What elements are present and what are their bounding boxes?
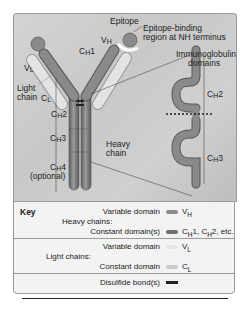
key-vl-symbol: VL (182, 242, 191, 253)
key-light-constant-label: Constant domain (100, 262, 160, 271)
ch3-label: CH3 (50, 134, 66, 144)
epitope-binding-label-2: region at NH terminus (143, 33, 226, 42)
light-chain-label-2: chain (17, 93, 37, 102)
key-divider-1 (14, 238, 234, 239)
key-legend: Key Variable domain VH Heavy chains: Con… (13, 201, 235, 294)
epitope-label: Epitope (110, 17, 139, 26)
key-heavy-constant-label: Constant domain(s) (90, 227, 160, 236)
ch1-label: CH1 (79, 47, 95, 57)
ch2-label: CH2 (51, 110, 67, 120)
cl-label: CL (41, 94, 51, 104)
swatch-light-constant (166, 265, 178, 269)
heavy-chain-stem-right (81, 92, 91, 190)
swatch-light-variable (166, 245, 178, 249)
swatch-heavy-variable (166, 210, 178, 214)
ig-domains-label-2: domains (188, 59, 220, 68)
vl-label: VL (24, 64, 34, 74)
bottom-rule (22, 298, 228, 299)
key-disulfide-label: Disulfide bond(s) (100, 278, 160, 287)
key-vh-symbol: VH (182, 207, 192, 218)
key-title: Key (20, 207, 36, 217)
key-heavy-variable-label: Variable domain (103, 207, 160, 216)
key-ch-symbol: CH1, CH2, etc. (182, 227, 234, 238)
optional-label: (optional) (30, 172, 65, 181)
light-chains-label: Light chains: (46, 252, 91, 261)
key-cl-symbol: CL (182, 262, 191, 273)
key-divider-2 (14, 273, 234, 274)
swatch-disulfide (166, 281, 178, 284)
heavy-chain-label-2: chain (106, 149, 126, 158)
inset-ch2-label: CH2 (207, 90, 223, 100)
heavy-chains-label: Heavy chains: (62, 217, 112, 226)
key-light-variable-label: Variable domain (103, 242, 160, 251)
inset-ch3-label: CH3 (207, 154, 223, 164)
vh-label: VH (101, 36, 112, 46)
swatch-heavy-constant (166, 230, 178, 234)
heavy-chain-stem-left (69, 92, 79, 190)
antibody-figure: Epitope Epitope-binding region at NH ter… (13, 13, 237, 202)
